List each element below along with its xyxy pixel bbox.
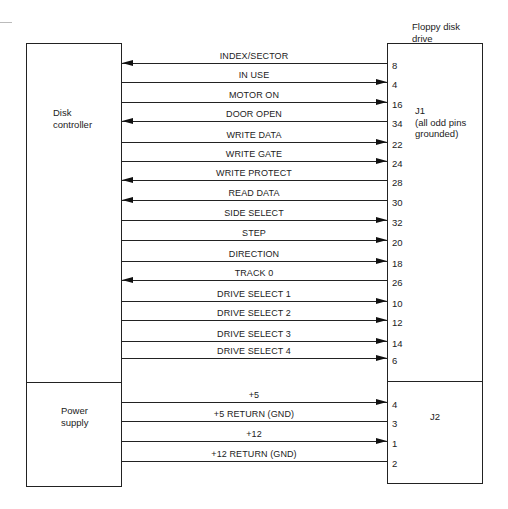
signal-line: [121, 341, 388, 342]
scan-artifact-line: [0, 22, 12, 23]
signal-line: [121, 161, 388, 162]
pin-number: 6: [392, 356, 397, 366]
arrow-left-icon: [122, 177, 133, 183]
arrow-right-icon: [376, 399, 387, 405]
pin-number: 22: [392, 140, 403, 150]
signal-name: +5: [121, 390, 387, 400]
signal-line: [121, 320, 388, 321]
arrow-left-icon: [122, 60, 133, 66]
signal-line: [121, 200, 388, 201]
pin-number: 8: [392, 61, 397, 71]
arrow-left-icon: [122, 197, 133, 203]
pin-number: 28: [392, 178, 403, 188]
pin-number: 14: [392, 339, 403, 349]
signal-name: DRIVE SELECT 3: [121, 329, 387, 339]
signal-name: +5 RETURN (GND): [121, 409, 387, 419]
signal-line: [121, 63, 388, 64]
arrow-left-icon: [122, 277, 133, 283]
arrow-right-icon: [376, 317, 387, 323]
power-supply-label: Power supply: [61, 405, 88, 428]
signal-name: WRITE PROTECT: [121, 168, 387, 178]
arrow-right-icon: [376, 237, 387, 243]
signal-name: +12 RETURN (GND): [121, 449, 387, 459]
signal-name: READ DATA: [121, 188, 387, 198]
signal-name: DRIVE SELECT 2: [121, 308, 387, 318]
disk-controller-label: Disk controller: [53, 107, 92, 130]
signal-line: [121, 142, 388, 143]
pin-number: 1: [392, 439, 397, 449]
pin-number: 3: [392, 419, 397, 429]
arrow-right-icon: [376, 79, 387, 85]
signal-name: DIRECTION: [121, 249, 387, 259]
j1-j2-divider: [387, 381, 483, 382]
signal-name: MOTOR ON: [121, 90, 387, 100]
signal-line: [121, 240, 388, 241]
j1-connector-label: J1 (all odd pins grounded): [415, 105, 466, 140]
signal-line: [121, 220, 388, 221]
pin-number: 4: [392, 80, 397, 90]
signal-line: [121, 180, 388, 181]
signal-line: [121, 358, 388, 359]
arrow-left-icon: [122, 118, 133, 124]
signal-name: WRITE GATE: [121, 149, 387, 159]
signal-line: [121, 280, 388, 281]
signal-name: SIDE SELECT: [121, 208, 387, 218]
arrow-right-icon: [376, 99, 387, 105]
signal-line: [121, 461, 388, 462]
signal-line: [121, 402, 388, 403]
signal-name: DOOR OPEN: [121, 109, 387, 119]
signal-name: INDEX/SECTOR: [121, 51, 387, 61]
j2-connector-label: J2: [430, 411, 440, 423]
signal-name: WRITE DATA: [121, 130, 387, 140]
pin-number: 20: [392, 238, 403, 248]
signal-name: DRIVE SELECT 4: [121, 346, 387, 356]
signal-line: [121, 301, 388, 302]
pin-number: 18: [392, 259, 403, 269]
pin-number: 16: [392, 100, 403, 110]
controller-power-divider: [26, 382, 122, 383]
signal-line: [121, 421, 388, 422]
signal-line: [121, 261, 388, 262]
arrow-right-icon: [376, 438, 387, 444]
arrow-right-icon: [376, 217, 387, 223]
arrow-right-icon: [376, 158, 387, 164]
signal-name: TRACK 0: [121, 268, 387, 278]
arrow-right-icon: [376, 355, 387, 361]
signal-name: IN USE: [121, 70, 387, 80]
pin-number: 10: [392, 299, 403, 309]
pin-number: 26: [392, 278, 403, 288]
signal-name: +12: [121, 429, 387, 439]
floppy-drive-label: Floppy disk drive: [412, 21, 460, 44]
arrow-right-icon: [376, 258, 387, 264]
pin-number: 32: [392, 218, 403, 228]
pin-number: 12: [392, 318, 403, 328]
arrow-right-icon: [376, 139, 387, 145]
arrow-right-icon: [376, 338, 387, 344]
arrow-right-icon: [376, 298, 387, 304]
pin-number: 4: [392, 400, 397, 410]
signal-line: [121, 82, 388, 83]
signal-line: [121, 121, 388, 122]
pin-number: 24: [392, 159, 403, 169]
pin-number: 30: [392, 198, 403, 208]
signal-name: DRIVE SELECT 1: [121, 289, 387, 299]
signal-line: [121, 441, 388, 442]
signal-name: STEP: [121, 228, 387, 238]
signal-line: [121, 102, 388, 103]
pin-number: 34: [392, 119, 403, 129]
pin-number: 2: [392, 459, 397, 469]
